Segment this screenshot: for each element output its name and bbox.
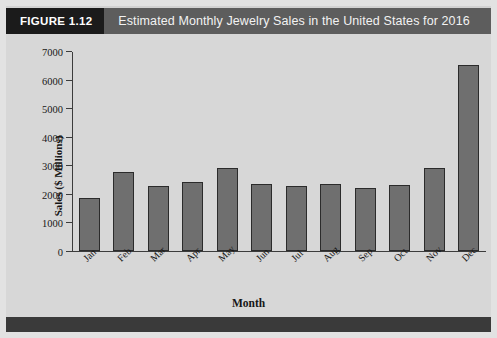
bar-slot — [210, 52, 245, 251]
x-tick-slot: Mar — [141, 252, 176, 298]
y-tick-label: 4000 — [42, 132, 63, 143]
y-axis-label: Sales ($ Millions) — [52, 135, 64, 216]
y-tick-label: 0 — [58, 247, 63, 258]
bar-sep[interactable] — [355, 188, 376, 251]
plot-area: 01000200030004000500060007000 JanFebMarA… — [72, 52, 486, 252]
figure-banner: FIGURE 1.12 Estimated Monthly Jewelry Sa… — [6, 8, 491, 34]
bar-chart: Sales ($ Millions) 010002000300040005000… — [6, 34, 491, 317]
bar-slot — [141, 52, 176, 251]
x-tick-slot: Dec — [452, 252, 487, 298]
bar-slot — [279, 52, 314, 251]
bar-may[interactable] — [217, 168, 238, 251]
figure-container: FIGURE 1.12 Estimated Monthly Jewelry Sa… — [0, 0, 497, 338]
bar-feb[interactable] — [113, 172, 134, 251]
bar-jan[interactable] — [79, 198, 100, 251]
x-tick-slot: Apr — [176, 252, 211, 298]
x-tick-slot: Sep — [348, 252, 383, 298]
bar-aug[interactable] — [320, 184, 341, 251]
bar-apr[interactable] — [182, 182, 203, 251]
bar-slot — [176, 52, 211, 251]
bar-mar[interactable] — [148, 186, 169, 251]
y-tick-label: 6000 — [42, 75, 63, 86]
bar-series — [72, 52, 486, 251]
x-tick-slot: Nov — [417, 252, 452, 298]
y-tick-label: 1000 — [42, 218, 63, 229]
bar-slot — [383, 52, 418, 251]
figure-number-tag: FIGURE 1.12 — [6, 8, 104, 34]
bar-oct[interactable] — [389, 185, 410, 251]
x-tick-slot: Jul — [279, 252, 314, 298]
bar-jun[interactable] — [251, 184, 272, 251]
x-tick-slot: Jan — [72, 252, 107, 298]
figure-title: Estimated Monthly Jewelry Sales in the U… — [104, 8, 469, 34]
footer-bar — [6, 317, 491, 332]
y-tick-label: 2000 — [42, 189, 63, 200]
y-tick-label: 3000 — [42, 161, 63, 172]
bar-slot — [72, 52, 107, 251]
x-tick-slot: Jun — [245, 252, 280, 298]
chart-panel: Sales ($ Millions) 010002000300040005000… — [6, 34, 491, 317]
bar-nov[interactable] — [424, 168, 445, 251]
x-tick-slot: Feb — [107, 252, 142, 298]
x-tick-slot: Aug — [314, 252, 349, 298]
x-tick-slot: Oct — [383, 252, 418, 298]
x-tick-slot: May — [210, 252, 245, 298]
bar-jul[interactable] — [286, 186, 307, 251]
x-axis-ticks: JanFebMarAprMayJunJulAugSepOctNovDec — [72, 252, 486, 298]
bar-slot — [107, 52, 142, 251]
bar-slot — [245, 52, 280, 251]
bar-slot — [417, 52, 452, 251]
bar-dec[interactable] — [458, 65, 479, 251]
bar-slot — [314, 52, 349, 251]
bar-slot — [452, 52, 487, 251]
y-tick-label: 7000 — [42, 47, 63, 58]
bar-slot — [348, 52, 383, 251]
x-axis-label: Month — [6, 297, 491, 309]
y-tick-label: 5000 — [42, 104, 63, 115]
